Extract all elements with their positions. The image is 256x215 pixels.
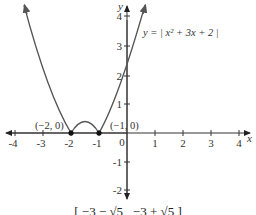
point-label: (−1, 0) xyxy=(110,120,139,132)
x-tick-label: 4 xyxy=(236,137,242,149)
x-tick-label: 2 xyxy=(180,137,186,149)
y-tick-label: 3 xyxy=(117,40,123,52)
y-tick-label: -2 xyxy=(113,184,122,196)
x-tick-label: 3 xyxy=(208,137,214,149)
x-tick-label: -1 xyxy=(92,137,101,149)
function-label: y = | x² + 3x + 2 | xyxy=(142,27,219,38)
x-tick-label: 1 xyxy=(152,137,158,149)
interval-caption: [ −3 − √5 , −3 + √5 ] xyxy=(0,204,256,215)
graph-area: -4 -3 -2 -1 0 1 2 3 4 x 4 3 2 1 -1 -2 y … xyxy=(0,0,256,215)
x-tick-label: 0 xyxy=(119,136,125,148)
x-intercept-point xyxy=(96,130,101,135)
y-axis-label: y xyxy=(117,0,123,12)
x-tick-label: -2 xyxy=(64,137,73,149)
x-intercept-point xyxy=(68,130,73,135)
y-tick-label: 1 xyxy=(117,98,123,110)
y-tick-label: -1 xyxy=(113,156,122,168)
x-tick-label: -4 xyxy=(8,137,18,149)
point-label: (−2, 0) xyxy=(35,120,64,132)
x-axis-label: x xyxy=(246,132,252,144)
x-tick-label: -3 xyxy=(36,137,46,149)
